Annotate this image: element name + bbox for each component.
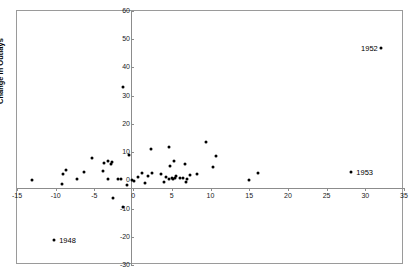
y-tick-mark	[131, 39, 134, 40]
data-point	[350, 170, 353, 173]
data-point	[204, 141, 207, 144]
data-point	[169, 164, 172, 167]
y-tick-mark	[131, 124, 134, 125]
data-point	[107, 178, 110, 181]
data-point	[257, 172, 260, 175]
data-point	[111, 196, 114, 199]
x-tick-mark	[327, 188, 328, 191]
data-point	[143, 181, 146, 184]
data-point	[122, 86, 125, 89]
data-point	[60, 182, 63, 185]
data-point	[128, 153, 131, 156]
x-tick-mark	[17, 188, 18, 191]
data-point	[91, 156, 94, 159]
data-point	[146, 174, 149, 177]
y-tick-label: 60	[117, 7, 130, 15]
data-point	[248, 179, 251, 182]
data-point	[188, 173, 191, 176]
data-point	[136, 176, 139, 179]
data-point	[379, 46, 382, 49]
data-point	[184, 181, 187, 184]
data-point	[168, 146, 171, 149]
data-point	[167, 178, 170, 181]
y-tick-label: -30	[117, 261, 130, 269]
data-point	[125, 184, 128, 187]
x-tick-mark	[249, 188, 250, 191]
data-point	[183, 162, 186, 165]
data-point-label: 1948	[59, 235, 76, 244]
data-point	[76, 178, 79, 181]
y-tick-mark	[131, 96, 134, 97]
data-point	[173, 159, 176, 162]
x-tick-mark	[172, 188, 173, 191]
y-tick-label: -20	[117, 233, 130, 241]
data-point	[149, 148, 152, 151]
data-point	[141, 171, 144, 174]
data-point	[31, 178, 34, 181]
y-tick-mark	[131, 152, 134, 153]
data-point	[83, 171, 86, 174]
x-tick-label: 10	[207, 192, 215, 200]
data-point	[181, 177, 184, 180]
data-point	[159, 172, 162, 175]
x-tick-label: 25	[323, 192, 331, 200]
data-point	[214, 154, 217, 157]
y-tick-mark	[131, 209, 134, 210]
x-tick-mark	[404, 188, 405, 191]
plot-frame: -15-10-505101520253035 -30-20-1001020304…	[16, 10, 403, 264]
y-tick-label: 50	[117, 35, 130, 43]
data-point	[132, 180, 135, 183]
data-point	[102, 162, 105, 165]
data-point	[122, 205, 125, 208]
data-point	[171, 178, 174, 181]
x-tick-mark	[56, 188, 57, 191]
data-point	[62, 172, 65, 175]
x-tick-label: -10	[51, 192, 61, 200]
data-point	[211, 166, 214, 169]
x-tick-mark	[365, 188, 366, 191]
data-point	[53, 238, 56, 241]
x-tick-mark	[288, 188, 289, 191]
y-tick-mark	[131, 237, 134, 238]
x-tick-label: 20	[284, 192, 292, 200]
data-point	[64, 168, 67, 171]
y-tick-mark	[131, 265, 134, 266]
data-point	[186, 177, 189, 180]
x-tick-label: 5	[170, 192, 174, 200]
data-point	[109, 163, 112, 166]
x-tick-label: 15	[245, 192, 253, 200]
data-point	[196, 173, 199, 176]
y-tick-mark	[131, 11, 134, 12]
x-tick-label: -15	[12, 192, 22, 200]
y-tick-label: 40	[117, 63, 130, 71]
data-point	[101, 170, 104, 173]
x-tick-label: 0	[131, 192, 135, 200]
x-tick-mark	[133, 188, 134, 191]
x-tick-label: 35	[400, 192, 408, 200]
x-tick-mark	[94, 188, 95, 191]
data-point-label: 1953	[356, 167, 373, 176]
y-axis-title: Change in Outlays	[0, 38, 5, 104]
data-point	[151, 171, 154, 174]
x-tick-label: 30	[361, 192, 369, 200]
y-tick-mark	[131, 67, 134, 68]
x-tick-mark	[211, 188, 212, 191]
data-point	[163, 181, 166, 184]
scatter-chart-figure: -15-10-505101520253035 -30-20-1001020304…	[0, 0, 414, 275]
data-point-label: 1952	[361, 43, 378, 52]
x-tick-label: -5	[91, 192, 97, 200]
y-tick-label: 20	[117, 120, 130, 128]
data-point	[117, 177, 120, 180]
y-axis-line	[131, 11, 132, 265]
y-tick-label: 30	[117, 92, 130, 100]
